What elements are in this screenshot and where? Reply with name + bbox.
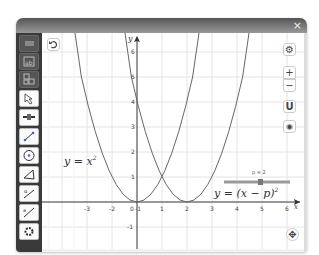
graphics-settings-button[interactable]: ⚙ [283,43,296,56]
zoom-out-button[interactable]: − [283,79,296,92]
x-tick: -3 [84,205,90,212]
geogebra-window: × ab α a [16,18,307,252]
tool-move[interactable] [19,90,39,107]
x-tick: 3 [210,205,214,212]
curve1-exponent: 2 [93,154,97,161]
y-tick: 1 [131,173,135,180]
title-bar: × [16,18,307,33]
tool-angle[interactable]: α [19,185,39,202]
x-tick: 1 [160,205,164,212]
tool-segment[interactable]: a [19,204,39,221]
svg-text:α: α [24,188,28,194]
x-tick: 6 [285,205,289,212]
y-tick: 6 [131,48,135,55]
coordinate-plane [42,33,304,249]
y-tick: 4 [131,98,135,105]
fullscreen-icon: ✥ [288,229,296,240]
window-border [304,33,307,252]
x-tick: -2 [109,205,115,212]
curve2-text: y = (x − p) [214,187,274,200]
svg-text:a: a [23,207,26,213]
tools-icon [22,73,36,86]
algebra-icon: ab [22,55,36,68]
y-tick: -1 [127,223,133,230]
y-tick: 2 [131,148,135,155]
x-tick: 0 [130,205,134,212]
gear-icon [22,225,36,238]
close-button[interactable]: × [293,18,302,33]
move-arrow-icon [22,92,36,105]
y-axis-label: y [128,34,133,43]
screenshot-button[interactable]: ◉ [283,120,296,133]
tools-view-button[interactable] [19,71,39,88]
polygon-icon [22,168,36,181]
curve2-exponent: 2 [274,186,278,193]
circle-icon [22,149,36,162]
standard-view-button[interactable]: U [283,100,296,113]
home-icon: U [285,101,293,112]
curve2-label[interactable]: y = (x − p)2 [214,186,278,200]
zoom-in-icon: + [285,67,293,78]
line-icon [22,130,36,143]
graphics-view[interactable]: -3 -2 -1 0 1 2 3 4 5 6 -1 1 2 3 4 5 6 y … [42,33,304,249]
tool-circle[interactable] [19,147,39,164]
gear-icon: ⚙ [285,44,294,55]
curve1-label[interactable]: y = x2 [64,154,96,168]
toolbar: ab α a [16,33,42,252]
svg-text:ab: ab [25,59,33,66]
x-axis-label: x [294,203,298,211]
tool-polygon[interactable] [19,166,39,183]
undo-icon [48,39,59,50]
zoom-in-button[interactable]: + [283,66,296,79]
slider-p[interactable] [224,177,290,187]
x-tick: 4 [235,205,239,212]
y-tick: 3 [131,123,135,130]
y-tick: 5 [131,73,135,80]
curve1-text: y = x [64,155,93,168]
camera-icon: ◉ [286,122,293,131]
menu-button[interactable] [19,35,39,52]
x-tick: 5 [260,205,264,212]
tool-slider[interactable] [19,109,39,126]
tool-line[interactable] [19,128,39,145]
fullscreen-button[interactable]: ✥ [286,228,299,241]
x-tick: -1 [135,205,141,212]
slider-label: p = 2 [252,169,266,175]
x-tick: 2 [185,205,189,212]
segment-icon: a [22,206,36,219]
undo-button[interactable] [47,38,60,51]
slider-icon [22,111,36,124]
tool-settings[interactable] [19,223,39,240]
zoom-out-icon: − [285,80,293,91]
algebra-view-button[interactable]: ab [19,53,39,70]
angle-icon: α [22,187,36,200]
menu-icon [22,37,36,50]
